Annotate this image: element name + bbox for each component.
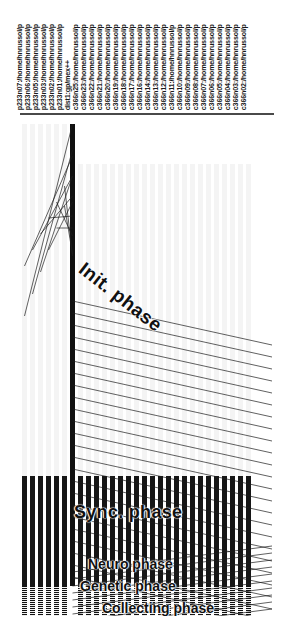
process-label-strip: p233n07:/home/hnrussol/pp233n06:/home/hn… bbox=[0, 0, 294, 112]
phase-label-genetic: Genetic phase bbox=[80, 578, 176, 594]
track-segment-idle bbox=[166, 164, 171, 476]
process-track[interactable] bbox=[54, 124, 59, 616]
track-segment-collecting bbox=[230, 586, 235, 616]
track-segment-idle bbox=[38, 124, 43, 476]
process-track[interactable] bbox=[78, 164, 83, 616]
track-segment-collecting bbox=[62, 586, 67, 616]
process-track[interactable] bbox=[198, 164, 203, 616]
track-segment-idle bbox=[126, 164, 131, 476]
track-segment-idle bbox=[102, 164, 107, 476]
track-segment-idle bbox=[182, 164, 187, 476]
track-segment-idle bbox=[118, 164, 123, 476]
track-segment-idle bbox=[86, 164, 91, 476]
process-track[interactable] bbox=[206, 164, 211, 616]
process-track[interactable] bbox=[102, 164, 107, 616]
process-track[interactable] bbox=[110, 164, 115, 616]
track-segment-idle bbox=[214, 164, 219, 476]
process-track[interactable] bbox=[158, 164, 163, 616]
track-segment-idle bbox=[62, 124, 67, 476]
track-segment-collecting bbox=[38, 586, 43, 616]
track-segment-collecting bbox=[22, 586, 27, 616]
process-track[interactable] bbox=[166, 164, 171, 616]
track-segment-idle bbox=[30, 124, 35, 476]
process-track[interactable] bbox=[190, 164, 195, 616]
process-track[interactable] bbox=[118, 164, 123, 616]
process-track[interactable] bbox=[126, 164, 131, 616]
track-segment-idle bbox=[78, 164, 83, 476]
process-track[interactable] bbox=[142, 164, 147, 616]
process-track[interactable] bbox=[246, 164, 251, 616]
process-track[interactable] bbox=[182, 164, 187, 616]
track-segment-collecting bbox=[30, 586, 35, 616]
process-track[interactable] bbox=[22, 124, 27, 616]
process-track[interactable] bbox=[230, 164, 235, 616]
process-track[interactable] bbox=[214, 164, 219, 616]
track-segment-idle bbox=[54, 124, 59, 476]
phase-label-neuro: Neuro phase bbox=[88, 556, 173, 572]
track-segment-idle bbox=[190, 164, 195, 476]
track-segment-idle bbox=[246, 164, 251, 476]
process-track[interactable] bbox=[134, 164, 139, 616]
message-line bbox=[49, 216, 73, 218]
trace-visualization: p233n07:/home/hnrussol/pp233n06:/home/hn… bbox=[0, 0, 294, 630]
process-label: c366n02:/home/hnrussol/p bbox=[240, 24, 247, 110]
process-track[interactable] bbox=[86, 164, 91, 616]
phase-label-collecting: Collecting phase bbox=[102, 600, 214, 616]
track-segment-idle bbox=[206, 164, 211, 476]
process-track[interactable] bbox=[222, 164, 227, 616]
track-segment-idle bbox=[22, 124, 27, 476]
process-track[interactable] bbox=[150, 164, 155, 616]
process-track[interactable] bbox=[46, 124, 51, 616]
phase-label-sync: Sync. phase bbox=[74, 502, 182, 523]
track-segment-idle bbox=[174, 164, 179, 476]
track-segment-idle bbox=[94, 164, 99, 476]
track-segment-collecting bbox=[54, 586, 59, 616]
track-segment-collecting bbox=[46, 586, 51, 616]
track-segment-idle bbox=[230, 164, 235, 476]
track-segment-collecting bbox=[238, 586, 243, 616]
track-segment-idle bbox=[198, 164, 203, 476]
process-track[interactable] bbox=[38, 124, 43, 616]
track-segment-collecting bbox=[214, 586, 219, 616]
track-segment-idle bbox=[222, 164, 227, 476]
process-track[interactable] bbox=[174, 164, 179, 616]
message-line bbox=[49, 202, 73, 250]
process-track[interactable] bbox=[238, 164, 243, 616]
timeline-plot[interactable] bbox=[0, 116, 294, 616]
track-segment-collecting bbox=[246, 586, 251, 616]
track-segment-idle bbox=[46, 124, 51, 476]
process-track[interactable] bbox=[62, 124, 67, 616]
track-segment-idle bbox=[110, 164, 115, 476]
header-divider bbox=[20, 113, 274, 115]
track-segment-idle bbox=[238, 164, 243, 476]
process-track[interactable] bbox=[94, 164, 99, 616]
track-segment-collecting bbox=[222, 586, 227, 616]
process-track[interactable] bbox=[30, 124, 35, 616]
